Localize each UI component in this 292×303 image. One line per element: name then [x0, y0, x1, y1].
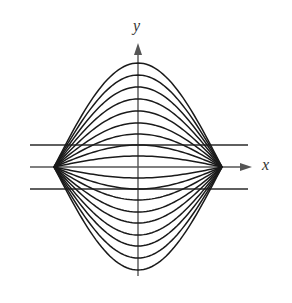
x-axis-arrow-icon	[240, 163, 252, 171]
plot-canvas	[0, 0, 292, 303]
curve-family-diagram: y x	[0, 0, 292, 303]
x-axis-label: x	[262, 157, 269, 173]
y-axis-label: y	[133, 18, 140, 34]
y-axis-arrow-icon	[134, 43, 142, 55]
